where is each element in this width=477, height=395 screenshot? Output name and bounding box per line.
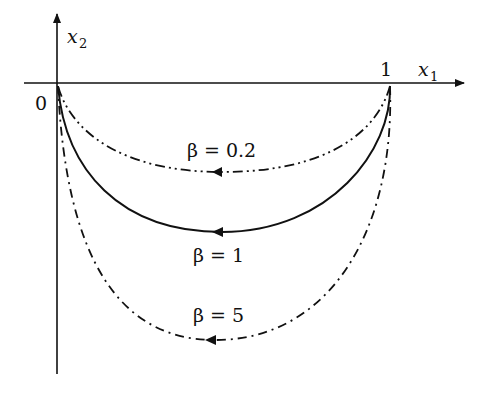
curve-label-beta-5: β = 5 <box>193 304 244 326</box>
svg-text:x: x <box>418 58 429 80</box>
direction-arrow-icon <box>212 167 222 177</box>
direction-arrow-icon <box>212 227 223 237</box>
y-axis-label: x 2 <box>67 25 87 51</box>
direction-arrow-icon <box>205 335 216 345</box>
curve-beta-5 <box>58 86 390 340</box>
svg-text:1: 1 <box>430 69 438 84</box>
curve-label-beta-0.2: β = 0.2 <box>187 139 256 161</box>
trajectory-diagram: x 2 x 1 0 1 β = 0.2 β = 1 β = 5 <box>0 0 477 395</box>
curve-label-beta-1: β = 1 <box>193 244 244 266</box>
svg-text:x: x <box>67 25 78 47</box>
x-tick-label-1: 1 <box>380 58 392 80</box>
origin-label: 0 <box>35 92 47 114</box>
x-axis-label: x 1 <box>418 58 438 84</box>
svg-text:2: 2 <box>79 36 87 51</box>
